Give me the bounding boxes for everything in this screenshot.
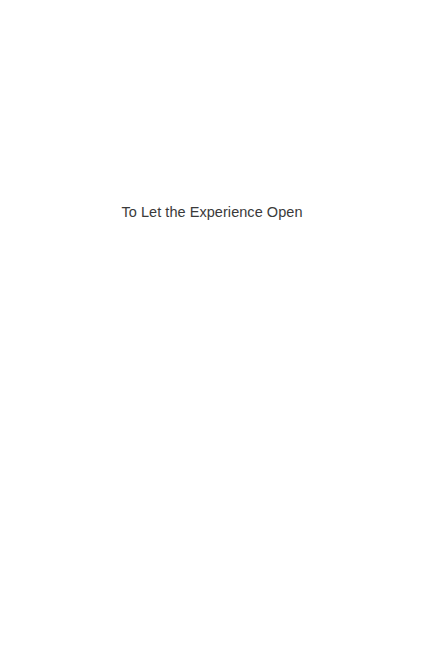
half-title: To Let the Experience Open: [0, 202, 424, 222]
book-page: To Let the Experience Open: [0, 0, 424, 668]
